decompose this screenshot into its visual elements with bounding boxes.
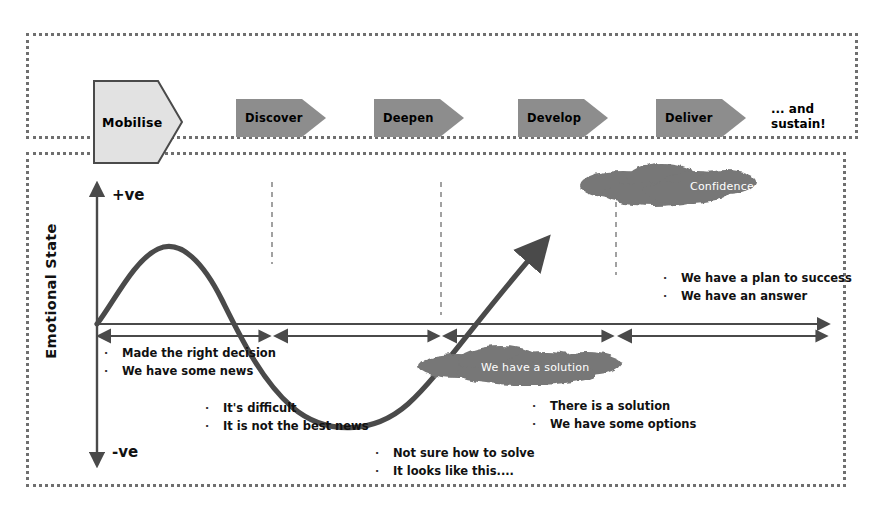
list-item: · It looks like this.... bbox=[375, 463, 535, 481]
y-axis-bottom-label: -ve bbox=[112, 443, 138, 461]
list-item: · It's difficult bbox=[205, 400, 368, 418]
list-item: · We have a plan to success bbox=[663, 270, 852, 288]
list-item: · We have some news bbox=[104, 363, 276, 381]
phase-banner-panel: Mobilise Discover Deepen Develop bbox=[26, 33, 858, 139]
bullets-difficulty: · It's difficult · It is not the best ne… bbox=[205, 400, 368, 436]
bullet-marker: · bbox=[104, 345, 122, 362]
emotional-curve-chart bbox=[26, 152, 846, 487]
phase-label: Develop bbox=[527, 111, 581, 125]
bullet-text: We have some news bbox=[122, 363, 253, 381]
bullet-text: We have an answer bbox=[681, 288, 807, 306]
phase-chevron-deepen[interactable]: Deepen bbox=[374, 99, 464, 137]
bullets-early-optimism: · Made the right decision · We have some… bbox=[104, 345, 276, 381]
bullet-marker: · bbox=[532, 416, 550, 433]
and-sustain-note: ... and sustain! bbox=[771, 102, 863, 132]
bullet-marker: · bbox=[532, 398, 550, 415]
solution-cloud-label: We have a solution bbox=[481, 361, 589, 374]
phase-label: Deliver bbox=[665, 111, 713, 125]
y-axis-top-label: +ve bbox=[112, 186, 145, 204]
list-item: · We have an answer bbox=[663, 288, 852, 306]
list-item: · We have some options bbox=[532, 416, 696, 434]
bullet-marker: · bbox=[375, 463, 393, 480]
phase-label: Discover bbox=[245, 111, 303, 125]
bullet-text: We have a plan to success bbox=[681, 270, 852, 288]
bullet-text: Made the right decision bbox=[122, 345, 276, 363]
y-axis-title: Emotional State bbox=[43, 221, 59, 361]
and-sustain-line2: sustain! bbox=[771, 117, 863, 132]
bullet-marker: · bbox=[663, 288, 681, 305]
bullet-text: It is not the best news bbox=[223, 418, 368, 436]
bullets-trough: · Not sure how to solve · It looks like … bbox=[375, 445, 535, 481]
list-item: · There is a solution bbox=[532, 398, 696, 416]
list-item: · Not sure how to solve bbox=[375, 445, 535, 463]
list-item: · Made the right decision bbox=[104, 345, 276, 363]
bullet-text: There is a solution bbox=[550, 398, 670, 416]
bullet-text: We have some options bbox=[550, 416, 696, 434]
bullet-marker: · bbox=[104, 363, 122, 380]
phase-label: Mobilise bbox=[102, 115, 162, 130]
bullet-text: It looks like this.... bbox=[393, 463, 514, 481]
phase-label: Deepen bbox=[383, 111, 434, 125]
bullet-text: It's difficult bbox=[223, 400, 297, 418]
bullet-marker: · bbox=[663, 270, 681, 287]
bullet-marker: · bbox=[205, 400, 223, 417]
phase-chevron-develop[interactable]: Develop bbox=[518, 99, 608, 137]
bullet-marker: · bbox=[205, 418, 223, 435]
phase-chevron-discover[interactable]: Discover bbox=[236, 99, 326, 137]
phase-chevron-mobilise[interactable]: Mobilise bbox=[92, 79, 184, 165]
bullet-text: Not sure how to solve bbox=[393, 445, 535, 463]
bullets-solution: · There is a solution · We have some opt… bbox=[532, 398, 696, 434]
and-sustain-line1: ... and bbox=[771, 102, 863, 117]
bullet-marker: · bbox=[375, 445, 393, 462]
list-item: · It is not the best news bbox=[205, 418, 368, 436]
phase-chevron-deliver[interactable]: Deliver bbox=[656, 99, 746, 137]
slide-canvas: Mobilise Discover Deepen Develop bbox=[0, 0, 885, 518]
confidence-cloud-label: Confidence bbox=[690, 180, 754, 193]
bullets-confidence: · We have a plan to success · We have an… bbox=[663, 270, 852, 306]
